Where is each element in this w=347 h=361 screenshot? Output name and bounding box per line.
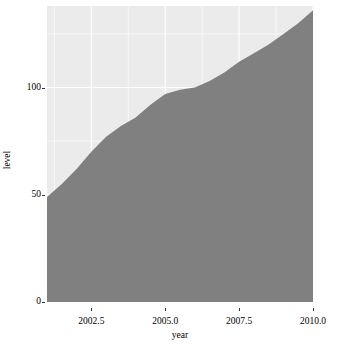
- x-tick-label: 2010.0: [283, 317, 343, 327]
- x-tick-mark: [313, 308, 314, 311]
- x-tick-mark: [165, 308, 166, 311]
- x-tick-label: 2005.0: [135, 317, 195, 327]
- x-tick-label: 2002.5: [61, 317, 121, 327]
- x-axis-ticks: 2002.52005.02007.52010.0: [0, 0, 347, 361]
- x-axis-title: year: [47, 330, 313, 340]
- area-chart: level 050100 2002.52005.02007.52010.0 ye…: [0, 0, 347, 361]
- x-tick-mark: [91, 308, 92, 311]
- x-tick-label: 2007.5: [209, 317, 269, 327]
- x-tick-mark: [239, 308, 240, 311]
